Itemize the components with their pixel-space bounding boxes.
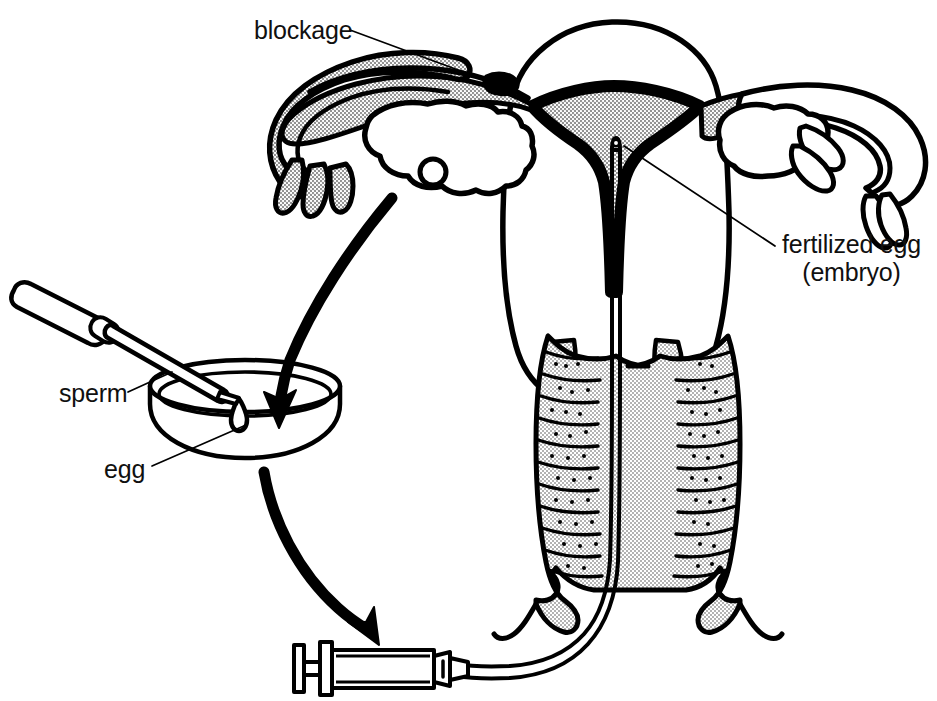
blockage-mark — [484, 73, 518, 95]
label-fertilized-egg-line1: fertilized egg — [782, 230, 921, 258]
ivf-diagram: blockage fertilized egg (embryo) sperm e… — [0, 0, 937, 701]
right-adnexa-group — [718, 85, 925, 248]
follicle — [420, 159, 446, 185]
label-blockage: blockage — [254, 16, 352, 44]
syringe-group — [294, 642, 468, 695]
arrow-dish-to-syringe — [264, 472, 368, 630]
label-sperm: sperm — [59, 379, 127, 407]
label-fertilized-egg: fertilized egg (embryo) — [782, 230, 921, 286]
diagram-canvas — [0, 0, 937, 701]
left-ovary — [365, 101, 534, 193]
label-fertilized-egg-line2: (embryo) — [782, 258, 921, 286]
syringe-plunger-rod — [304, 662, 320, 675]
introitus-left — [494, 604, 536, 639]
vagina-group — [494, 336, 782, 639]
embryo-at-tip — [613, 140, 619, 146]
label-egg: egg — [104, 455, 145, 483]
syringe-nozzle — [450, 658, 468, 680]
arrow-dish-to-syringe-head — [348, 607, 379, 645]
left-fimbriae — [275, 160, 353, 216]
introitus-right — [740, 604, 782, 639]
